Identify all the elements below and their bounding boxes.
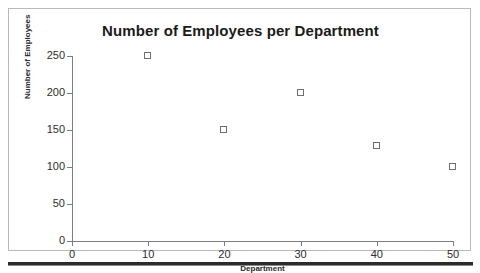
y-axis-tick-label: 100: [25, 161, 65, 172]
data-point-marker: [297, 89, 304, 96]
x-axis-tick-mark: [224, 241, 225, 246]
x-axis-tick-label: 40: [357, 249, 397, 260]
x-axis-tick-mark: [377, 241, 378, 246]
y-axis-title: Number of Employees: [23, 15, 32, 99]
y-axis-tick-mark: [67, 56, 72, 57]
x-axis-line: [72, 241, 453, 242]
y-axis-tick-mark: [67, 93, 72, 94]
data-point-marker: [144, 52, 151, 59]
y-axis-tick-label-wrap: 100: [17, 161, 65, 172]
data-point-marker: [373, 142, 380, 149]
y-axis-tick-mark: [67, 204, 72, 205]
x-axis-tick-mark: [301, 241, 302, 246]
y-axis-tick-mark: [67, 130, 72, 131]
x-axis-tick-label: 0: [52, 249, 92, 260]
x-axis-tick-label: 10: [128, 249, 168, 260]
y-axis-tick-label-wrap: 150: [17, 124, 65, 135]
scan-edge-artifact-secondary: [8, 265, 473, 266]
x-axis-tick-mark: [148, 241, 149, 246]
y-axis-line: [72, 56, 73, 242]
data-point-marker: [220, 126, 227, 133]
y-axis-tick-label: 50: [25, 198, 65, 209]
chart-figure-frame: Number of Employees per Department 05010…: [8, 8, 471, 251]
y-axis-tick-label-wrap: 50: [17, 198, 65, 209]
x-axis-tick-mark: [72, 241, 73, 246]
x-axis-tick-mark: [453, 241, 454, 246]
x-axis-tick-label: 30: [281, 249, 321, 260]
x-axis-tick-label: 50: [433, 249, 473, 260]
x-axis-tick-label: 20: [204, 249, 244, 260]
y-axis-tick-label-wrap: 0: [17, 235, 65, 246]
plot-area: 050100150200250 01020304050 Number of Em…: [9, 9, 472, 252]
y-axis-tick-mark: [67, 167, 72, 168]
y-axis-tick-label: 0: [25, 235, 65, 246]
data-point-marker: [449, 163, 456, 170]
y-axis-tick-label: 150: [25, 124, 65, 135]
